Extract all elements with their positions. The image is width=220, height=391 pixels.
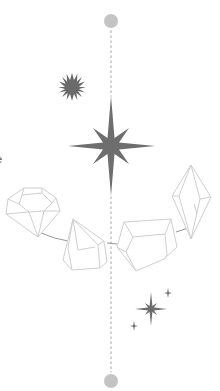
sparkle-large-icon (135, 292, 167, 326)
gem-timeline-illustration (0, 0, 220, 391)
round-gem-icon (6, 188, 60, 237)
sparkle-small-top-icon (164, 288, 172, 298)
elongated-crystal-icon (172, 165, 211, 239)
pyramid-crystal-icon (63, 219, 107, 270)
sparkle-cluster-icon (130, 288, 172, 331)
sunburst-icon (58, 73, 86, 101)
eight-point-star-icon (68, 96, 155, 196)
sparkle-small-bottom-icon (130, 321, 138, 331)
prism-crystal-icon (117, 219, 177, 271)
timeline-top-circle-icon (104, 14, 118, 28)
timeline-bottom-circle-icon (104, 374, 118, 388)
